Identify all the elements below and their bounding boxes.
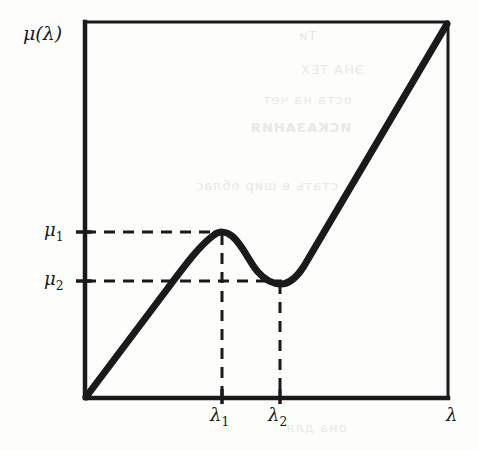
x-tick-label-lambda2-subscript: 2 [279,415,287,429]
y-tick-label-mu1-base: μ [44,219,56,240]
y-axis-label: μ(λ) [23,22,62,44]
y-tick-label-mu2: μ2 [44,268,64,293]
y-tick-label-mu2-base: μ [44,268,56,289]
x-tick-label-lambda1-base: λ [210,404,221,425]
guide-lines [85,232,282,398]
x-tick-label-lambda2: λ2 [268,404,287,429]
x-axis-label: λ [446,404,457,425]
x-tick-label-lambda1-subscript: 1 [221,415,229,429]
curve-mu-lambda [86,24,447,397]
y-tick-label-mu2-subscript: 2 [56,279,64,293]
x-tick-label-lambda2-base: λ [268,404,279,425]
figure-container: Ти ЭНА ТЕХ оста на чет ИСКАЗАНИЯ стать в… [0,0,479,451]
plot-area [0,0,479,451]
plot-frame [85,22,448,398]
y-tick-label-mu1: μ1 [44,219,64,244]
x-tick-label-lambda1: λ1 [210,404,229,429]
y-tick-label-mu1-subscript: 1 [56,230,64,244]
